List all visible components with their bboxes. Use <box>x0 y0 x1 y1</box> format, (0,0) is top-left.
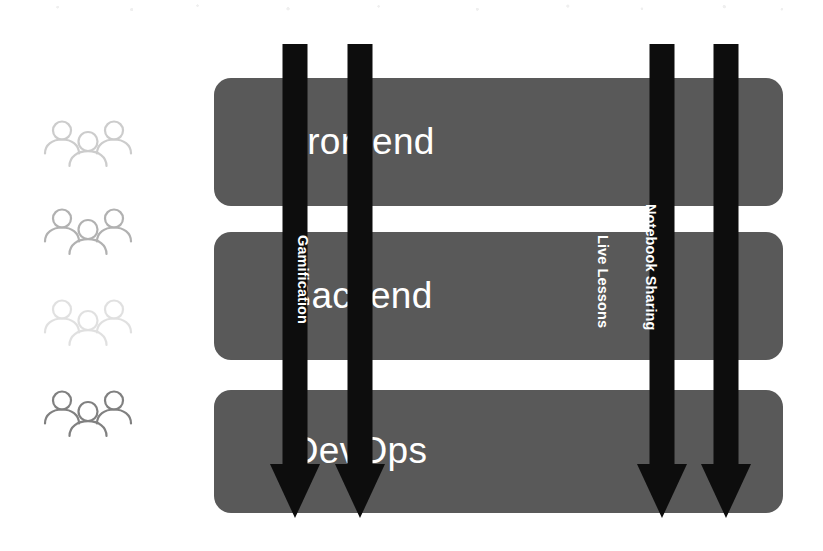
flow-arrow-notebook-sharing[interactable]: Notebook Sharing <box>701 44 751 518</box>
arrow-head-down-icon <box>335 464 385 518</box>
arrow-shaft <box>348 44 373 464</box>
flow-arrow-label: Live Lessons <box>590 235 615 328</box>
flow-arrow-label: Data Analytics Visualization <box>173 148 198 343</box>
arrow-head-down-icon <box>701 464 751 518</box>
flow-arrow-gamification[interactable]: Gamification <box>335 44 385 518</box>
diagram-canvas: FrontendBackendDevOps Data Analytics Vis… <box>0 0 823 551</box>
flow-arrow-label: Gamification <box>290 235 315 324</box>
people-group-icon <box>42 119 134 177</box>
people-group-icon <box>42 298 134 356</box>
people-group-icon <box>42 207 134 265</box>
arrow-shaft <box>714 44 739 464</box>
arrow-head-down-icon <box>270 464 320 518</box>
flow-arrow-label: Notebook Sharing <box>638 204 663 330</box>
people-group-icon <box>42 389 134 447</box>
stakeholders-column <box>0 0 190 551</box>
arrow-head-down-icon <box>637 464 687 518</box>
